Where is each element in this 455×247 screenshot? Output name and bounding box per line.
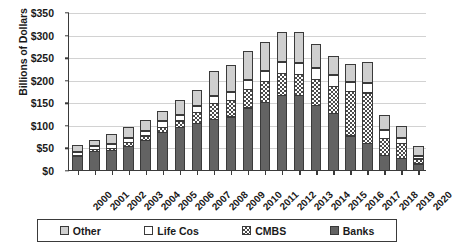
legend-swatch-icon — [330, 226, 339, 235]
bar-segment-banks-2020 — [413, 164, 424, 171]
bar-segment-other-2003 — [123, 127, 134, 138]
legend-label: Other — [73, 225, 101, 237]
bar-segment-other-2004 — [140, 120, 151, 131]
x-axis-tick-mark — [78, 171, 79, 175]
y-axis-tick-mark — [65, 170, 69, 171]
x-axis-tick-mark — [112, 171, 113, 175]
bar-segment-banks-2013 — [294, 95, 305, 171]
bar-segment-other-2005 — [157, 111, 168, 122]
bar-2020 — [413, 146, 424, 170]
bar-segment-cmbs-2014 — [311, 79, 322, 106]
x-axis-tick-mark — [367, 171, 368, 175]
bar-segment-other-2006 — [175, 100, 186, 114]
legend-label: CMBS — [255, 225, 286, 237]
bar-segment-banks-2010 — [243, 108, 254, 171]
legend-item-cmbs: CMBS — [242, 225, 286, 237]
x-axis-tick-mark — [350, 171, 351, 175]
bar-segment-other-2016 — [345, 64, 356, 83]
y-axis-tick-label: $0 — [0, 165, 54, 177]
bar-segment-banks-2000 — [72, 156, 83, 171]
bar-segment-cmbs-2008 — [209, 103, 220, 120]
legend-swatch-icon — [242, 226, 251, 235]
bar-segment-banks-2018 — [379, 155, 390, 171]
bar-segment-other-2019 — [396, 126, 407, 138]
y-axis-tick-label: $150 — [0, 97, 54, 109]
bar-2012 — [277, 32, 288, 170]
bar-segment-cmbs-2017 — [362, 93, 373, 144]
y-axis-tick-label: $100 — [0, 120, 54, 132]
bar-segment-banks-2002 — [106, 150, 117, 170]
bar-2008 — [209, 71, 220, 170]
legend-swatch-icon — [60, 226, 69, 235]
bar-segment-other-2008 — [209, 71, 220, 96]
bar-segment-banks-2015 — [328, 113, 339, 171]
bar-segment-banks-2004 — [140, 140, 151, 171]
bar-2002 — [106, 134, 117, 170]
bar-segment-other-2010 — [243, 51, 254, 79]
y-axis-tick-label: $300 — [0, 30, 54, 42]
x-axis-tick-mark — [95, 171, 96, 175]
legend-item-other: Other — [60, 225, 101, 237]
bar-segment-cmbs-2019 — [396, 143, 407, 159]
x-axis-tick-mark — [146, 171, 147, 175]
legend-item-banks: Banks — [330, 225, 375, 237]
bar-2015 — [328, 56, 339, 170]
bar-segment-other-2017 — [362, 62, 373, 83]
bar-2009 — [226, 65, 237, 170]
x-axis-tick-mark — [197, 171, 198, 175]
bar-segment-other-2011 — [260, 42, 271, 71]
x-axis-tick-mark — [282, 171, 283, 175]
bar-segment-cmbs-2018 — [379, 138, 390, 156]
bar-segment-banks-2003 — [123, 146, 134, 171]
legend-label: Life Cos — [157, 225, 198, 237]
legend-item-life-cos: Life Cos — [144, 225, 198, 237]
bar-segment-banks-2007 — [192, 123, 203, 170]
bar-segment-banks-2019 — [396, 158, 407, 171]
bar-segment-banks-2001 — [89, 151, 100, 170]
bar-segment-banks-2017 — [362, 143, 373, 171]
bar-2011 — [260, 42, 271, 170]
bar-segment-cmbs-2011 — [260, 81, 271, 103]
bar-segment-other-2014 — [311, 44, 322, 68]
x-axis-tick-mark — [418, 171, 419, 175]
bar-segment-other-2020 — [413, 146, 424, 155]
bar-segment-other-2018 — [379, 115, 390, 131]
bar-segment-other-2007 — [192, 90, 203, 106]
bar-2000 — [72, 145, 83, 170]
legend-swatch-icon — [144, 226, 153, 235]
x-axis-tick-mark — [163, 171, 164, 175]
bar-2007 — [192, 90, 203, 170]
y-axis-tick-label: $200 — [0, 75, 54, 87]
x-axis-tick-mark — [299, 171, 300, 175]
bar-segment-cmbs-2010 — [243, 89, 254, 108]
chart-legend: OtherLife CosCMBSBanks — [37, 219, 397, 242]
bar-2004 — [140, 120, 151, 170]
bar-segment-other-2000 — [72, 145, 83, 152]
bar-segment-banks-2016 — [345, 136, 356, 171]
bar-segment-banks-2012 — [277, 95, 288, 171]
bar-2014 — [311, 44, 322, 170]
x-axis-tick-mark — [231, 171, 232, 175]
bar-segment-banks-2006 — [175, 127, 186, 171]
x-axis-tick-label: 2020 — [431, 189, 455, 213]
bar-2010 — [243, 51, 254, 170]
bar-segment-other-2015 — [328, 56, 339, 75]
x-axis-tick-mark — [316, 171, 317, 175]
bar-segment-banks-2008 — [209, 119, 220, 171]
bar-segment-banks-2005 — [157, 132, 168, 170]
bar-series-group — [69, 13, 426, 170]
legend-label: Banks — [343, 225, 375, 237]
x-axis-tick-mark — [180, 171, 181, 175]
bar-segment-other-2009 — [226, 65, 237, 92]
x-axis-tick-mark — [248, 171, 249, 175]
bar-2016 — [345, 64, 356, 170]
y-axis-tick-label: $350 — [0, 7, 54, 19]
x-axis-tick-mark — [214, 171, 215, 175]
bar-2003 — [123, 127, 134, 170]
bar-segment-cmbs-2012 — [277, 73, 288, 96]
bar-2006 — [175, 100, 186, 170]
bar-2005 — [157, 111, 168, 170]
y-axis-tick-label: $250 — [0, 52, 54, 64]
x-axis-tick-mark — [384, 171, 385, 175]
